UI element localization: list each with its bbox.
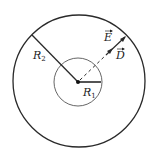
r1-label: R1	[82, 86, 96, 100]
r2-label: R2	[32, 49, 46, 63]
center-dot	[76, 80, 80, 84]
e-field-label: E	[103, 31, 112, 44]
d-field-label: D	[115, 49, 125, 62]
spherical-capacitor-diagram: R2 R1 E D	[0, 0, 153, 156]
